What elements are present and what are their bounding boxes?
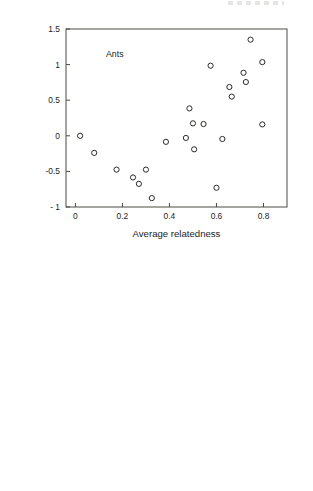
scatter-plot-top: 00.20.40.60.8- 1-0.500.511.5AntsAverage … bbox=[0, 0, 313, 250]
data-point-marker bbox=[201, 121, 206, 126]
data-point-marker bbox=[214, 185, 219, 190]
x-axis-tick-label: 0.8 bbox=[258, 211, 270, 221]
data-point-marker bbox=[114, 167, 119, 172]
data-point-marker bbox=[227, 84, 232, 89]
y-axis-tick-label: 1.5 bbox=[48, 24, 60, 34]
plot-frame bbox=[66, 29, 287, 207]
y-axis-tick-label: 0.5 bbox=[48, 95, 60, 105]
data-point-marker bbox=[187, 106, 192, 111]
data-point-marker bbox=[130, 175, 135, 180]
data-point-marker bbox=[92, 150, 97, 155]
data-point-marker bbox=[192, 147, 197, 152]
data-point-marker bbox=[78, 133, 83, 138]
chart-panel-top: 00.20.40.60.8- 1-0.500.511.5AntsAverage … bbox=[0, 0, 313, 250]
data-point-marker bbox=[229, 94, 234, 99]
y-axis-tick-label: 1 bbox=[55, 60, 60, 70]
x-axis-tick-label: 0 bbox=[73, 211, 78, 221]
scatter-plot-bottom bbox=[0, 255, 313, 491]
data-point-marker bbox=[243, 79, 248, 84]
data-point-marker bbox=[208, 63, 213, 68]
data-point-marker bbox=[143, 167, 148, 172]
data-point-marker bbox=[163, 139, 168, 144]
data-point-marker bbox=[190, 121, 195, 126]
x-axis-tick-label: 0.6 bbox=[211, 211, 223, 221]
data-point-marker bbox=[260, 122, 265, 127]
data-point-marker bbox=[260, 60, 265, 65]
data-point-marker bbox=[248, 37, 253, 42]
data-point-marker bbox=[149, 196, 154, 201]
x-axis-title: Average relatedness bbox=[133, 228, 221, 239]
x-axis-tick-label: 0.2 bbox=[117, 211, 129, 221]
y-axis-tick-label: -0.5 bbox=[46, 166, 61, 176]
figure-container: 00.20.40.60.8- 1-0.500.511.5AntsAverage … bbox=[0, 0, 313, 491]
data-point-marker bbox=[241, 70, 246, 75]
y-axis-tick-label: 0 bbox=[55, 131, 60, 141]
series-annotation-label: Ants bbox=[106, 49, 124, 59]
x-axis-tick-label: 0.4 bbox=[164, 211, 176, 221]
y-axis-tick-label: - 1 bbox=[50, 202, 60, 212]
chart-panel-bottom bbox=[0, 255, 313, 491]
data-point-marker bbox=[220, 136, 225, 141]
data-point-marker bbox=[136, 181, 141, 186]
data-point-marker bbox=[183, 135, 188, 140]
